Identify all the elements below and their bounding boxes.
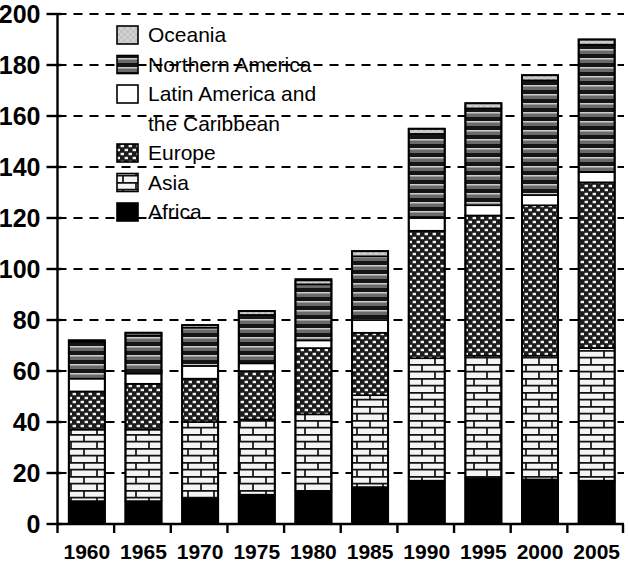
bar-segment: [522, 479, 558, 524]
chart-legend: OceaniaNorthern AmericaLatin America and…: [117, 23, 316, 223]
bar-segment: [295, 491, 331, 524]
bar-1960: [69, 340, 105, 524]
bar-segment: [182, 499, 218, 525]
legend-label: Oceania: [148, 23, 227, 46]
y-tick-label: 160: [0, 102, 41, 130]
x-tick-label: 1970: [177, 540, 224, 563]
bar-segment: [352, 487, 388, 524]
bar-segment: [522, 356, 558, 480]
chart-canvas: 020406080100120140160180200 196019651970…: [0, 0, 628, 568]
y-tick-label: 80: [13, 306, 41, 334]
legend-label: Africa: [148, 200, 202, 223]
bar-2005: [579, 40, 615, 525]
y-tick-label: 100: [0, 255, 41, 283]
legend-swatch: [117, 85, 138, 103]
x-tick-labels: 1960196519701975198019851990199520002005: [58, 524, 624, 563]
bar-segment: [579, 481, 615, 524]
bar-segment: [465, 205, 501, 215]
legend-label: Latin America and: [148, 82, 316, 105]
legend-swatch: [117, 203, 138, 221]
bar-segment: [352, 320, 388, 333]
stacked-bar-chart: 020406080100120140160180200 196019651970…: [0, 0, 628, 568]
legend-swatch: [117, 144, 138, 162]
bar-segment: [125, 335, 161, 373]
bar-segment: [182, 422, 218, 499]
y-tick-label: 60: [13, 357, 41, 385]
y-tick-label: 0: [27, 510, 41, 538]
bar-segment: [125, 374, 161, 384]
bar-segment: [409, 358, 445, 480]
bar-segment: [465, 215, 501, 355]
bar-segment: [295, 348, 331, 414]
bar-segment: [579, 182, 615, 348]
bar-segment: [579, 348, 615, 481]
bar-segment: [465, 108, 501, 205]
y-tick-label: 120: [0, 204, 41, 232]
x-tick-label: 2000: [517, 540, 564, 563]
bar-segment: [579, 172, 615, 182]
bar-2000: [522, 75, 558, 524]
y-tick-label: 40: [13, 408, 41, 436]
bar-1995: [465, 103, 501, 524]
bar-segment: [295, 414, 331, 491]
bar-segment: [295, 284, 331, 340]
bar-segment: [239, 315, 275, 363]
bar-segment: [69, 342, 105, 379]
legend-label: the Caribbean: [148, 112, 280, 135]
x-tick-label: 1995: [460, 540, 507, 563]
bar-segment: [69, 501, 105, 524]
legend-swatch: [117, 26, 138, 44]
bar-segment: [352, 333, 388, 395]
y-tick-label: 180: [0, 51, 41, 79]
x-tick-label: 1985: [347, 540, 394, 563]
legend-label: Northern America: [148, 53, 312, 76]
bar-segment: [352, 256, 388, 320]
x-tick-label: 1960: [63, 540, 110, 563]
x-tick-label: 2005: [573, 540, 620, 563]
y-tick-labels: 020406080100120140160180200: [0, 0, 62, 538]
bar-1975: [239, 311, 275, 524]
x-tick-label: 1975: [233, 540, 280, 563]
bar-segment: [522, 80, 558, 195]
bar-segment: [522, 205, 558, 355]
bar-segment: [465, 478, 501, 524]
bar-segment: [522, 195, 558, 205]
y-tick-label: 20: [13, 459, 41, 487]
bar-segment: [69, 379, 105, 392]
bar-segment: [409, 134, 445, 218]
bar-segment: [239, 363, 275, 371]
bar-segment: [125, 501, 161, 524]
bar-segment: [182, 366, 218, 379]
legend-swatch: [117, 56, 138, 74]
bar-segment: [295, 280, 331, 284]
y-tick-label: 140: [0, 153, 41, 181]
bar-segment: [69, 430, 105, 501]
bar-segment: [409, 481, 445, 524]
bar-segment: [409, 218, 445, 231]
bar-1970: [182, 325, 218, 524]
bar-segment: [579, 45, 615, 173]
x-tick-label: 1990: [403, 540, 450, 563]
bar-segment: [239, 371, 275, 419]
bar-segment: [465, 356, 501, 478]
bar-segment: [295, 340, 331, 348]
legend-label: Asia: [148, 171, 189, 194]
bar-segment: [69, 391, 105, 429]
bar-segment: [182, 328, 218, 366]
bar-1965: [125, 333, 161, 524]
bar-segment: [125, 430, 161, 501]
x-tick-label: 1965: [120, 540, 167, 563]
x-tick-label: 1980: [290, 540, 337, 563]
bar-segment: [239, 419, 275, 494]
bar-1985: [352, 251, 388, 524]
bar-segment: [239, 495, 275, 524]
bar-segment: [352, 395, 388, 487]
bar-segment: [125, 384, 161, 430]
legend-swatch: [117, 174, 138, 192]
bar-1980: [295, 279, 331, 524]
bar-segment: [409, 231, 445, 359]
y-tick-label: 200: [0, 0, 41, 28]
bar-segment: [182, 379, 218, 422]
legend-label: Europe: [148, 141, 216, 164]
bar-1990: [409, 129, 445, 524]
